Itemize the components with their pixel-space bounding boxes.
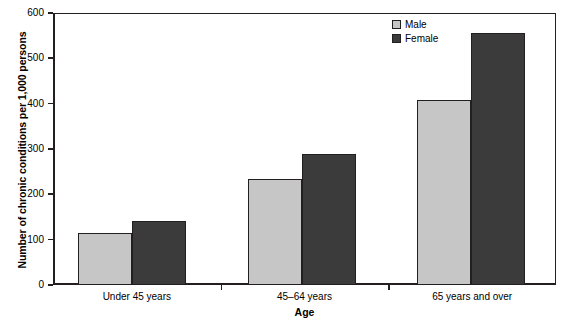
x-category-label: 45–64 years: [221, 291, 389, 303]
legend-label: Male: [405, 19, 427, 30]
bar-female-group-0: [132, 221, 186, 285]
bar-female-group-2: [471, 33, 525, 285]
bar-chart: Number of chronic conditions per 1,000 p…: [0, 0, 562, 321]
x-category-label: Under 45 years: [53, 291, 221, 303]
legend-item-female: Female: [392, 32, 438, 44]
y-tick-label: 600: [27, 7, 44, 18]
legend-item-male: Male: [392, 18, 438, 30]
bar-male-group-0: [78, 233, 132, 285]
bar-female-group-1: [302, 154, 356, 285]
x-tick-mark: [221, 285, 223, 290]
legend: MaleFemale: [392, 18, 438, 46]
legend-swatch-male: [392, 20, 401, 29]
x-category-label: 65 years and over: [388, 291, 556, 303]
y-tick-label: 0: [38, 279, 44, 290]
y-tick-label: 400: [27, 98, 44, 109]
y-tick-label: 100: [27, 234, 44, 245]
y-tick-label: 200: [27, 188, 44, 199]
bar-male-group-2: [417, 100, 471, 285]
x-axis-category-labels: Under 45 years45–64 years65 years and ov…: [53, 291, 556, 307]
legend-swatch-female: [392, 34, 401, 43]
x-tick-mark: [388, 285, 390, 290]
x-axis-title: Age: [53, 306, 556, 318]
legend-label: Female: [405, 33, 438, 44]
y-tick-label: 500: [27, 52, 44, 63]
y-tick-label: 300: [27, 143, 44, 154]
bar-male-group-1: [248, 179, 302, 285]
bars-layer: [53, 13, 556, 285]
y-axis-ticks: 0100200300400500600: [0, 13, 53, 285]
